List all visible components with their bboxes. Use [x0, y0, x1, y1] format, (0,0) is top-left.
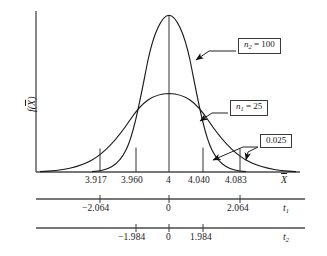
callout-n1-eq: = 25 — [244, 101, 263, 111]
leader-alpha-left — [213, 147, 258, 160]
t2-tick-label-pos: 1.984 — [190, 232, 212, 242]
t2-axis-name: t2 — [283, 231, 289, 243]
leader-n2 — [196, 51, 236, 60]
t1-axis-name: t1 — [283, 202, 289, 214]
xbar-tick-label-4040: 4.040 — [188, 175, 210, 185]
xbar-tick-label-4: 4 — [166, 175, 171, 185]
t1-tick-label-zero: 0 — [166, 203, 171, 213]
xbar-axis-name: X — [281, 174, 287, 185]
statistics-figure: f(X) 3.917 3.960 4 4.040 4.083 X −2.064 … — [0, 0, 327, 256]
callout-n2-100: n2 = 100 — [238, 38, 281, 54]
callout-n2-eq: = 100 — [252, 39, 275, 49]
callout-alpha-value: 0.025 — [266, 135, 286, 145]
xbar-tick-label-3917: 3.917 — [85, 175, 107, 185]
leader-alpha-right — [246, 147, 258, 160]
t1-tick-label-neg: −2.064 — [82, 203, 109, 213]
callout-n1-25: n1 = 25 — [230, 100, 268, 116]
xbar-tick-label-4083: 4.083 — [225, 175, 247, 185]
t1-tick-label-pos: 2.064 — [227, 203, 249, 213]
callout-alpha-0025: 0.025 — [260, 134, 292, 148]
xbar-tick-label-3960: 3.960 — [121, 175, 143, 185]
t2-tick-label-zero: 0 — [166, 232, 171, 242]
t2-tick-label-neg: −1.984 — [118, 232, 145, 242]
y-axis-label: f(X) — [26, 96, 37, 112]
